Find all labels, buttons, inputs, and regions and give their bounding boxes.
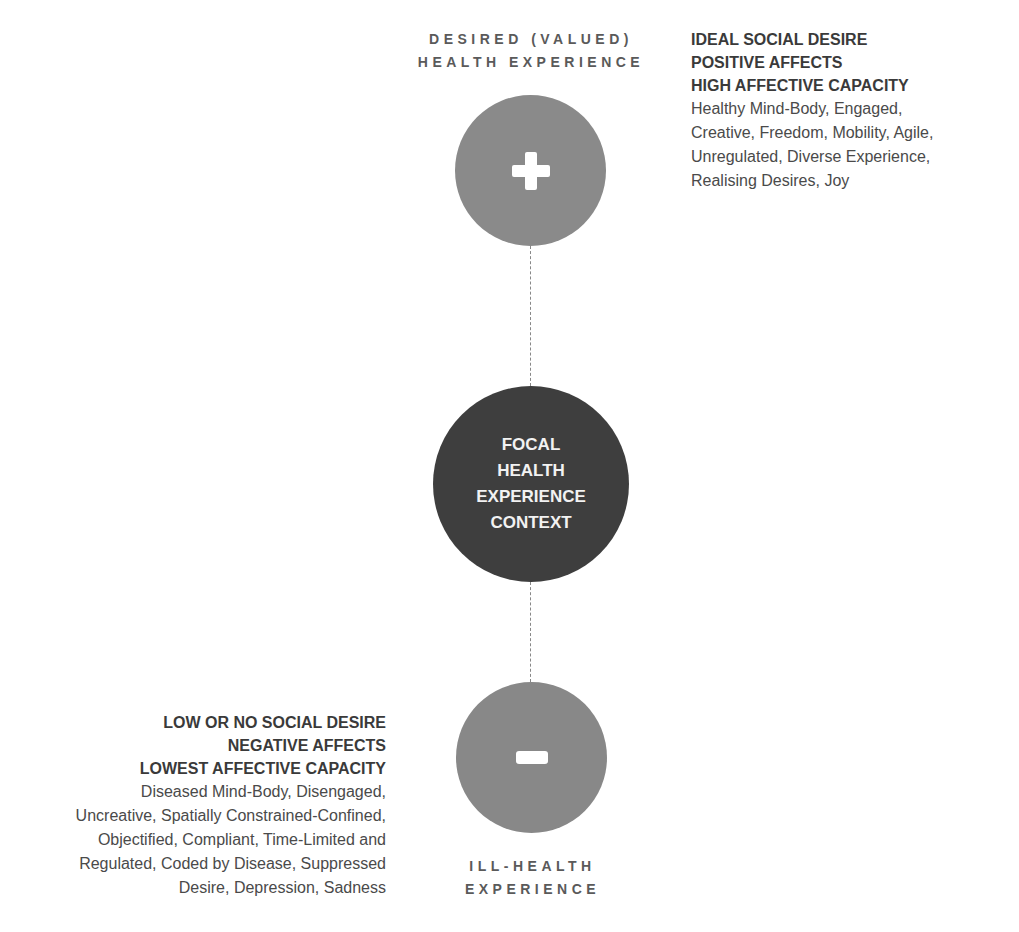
top-node-description-block: IDEAL SOCIAL DESIRE POSITIVE AFFECTS HIG… <box>691 28 1011 193</box>
top-node-title-line: DESIRED (VALUED) <box>400 28 662 51</box>
top-heading-line: HIGH AFFECTIVE CAPACITY <box>691 74 1011 97</box>
top-description-line: Unregulated, Diverse Experience, <box>691 145 1011 169</box>
top-description-line: Healthy Mind-Body, Engaged, <box>691 97 1011 121</box>
plus-icon <box>512 152 550 190</box>
top-heading-line: POSITIVE AFFECTS <box>691 51 1011 74</box>
bottom-description-line: Objectified, Compliant, Time-Limited and <box>20 828 386 852</box>
focal-label-line: EXPERIENCE <box>476 484 586 510</box>
top-node-title-line: HEALTH EXPERIENCE <box>400 51 662 74</box>
bottom-heading-line: NEGATIVE AFFECTS <box>20 734 386 757</box>
minus-icon <box>516 751 548 764</box>
connector-center-bottom <box>530 582 531 682</box>
top-node-title: DESIRED (VALUED) HEALTH EXPERIENCE <box>400 28 662 74</box>
bottom-description-line: Diseased Mind-Body, Disengaged, <box>20 780 386 804</box>
top-description-line: Realising Desires, Joy <box>691 169 1011 193</box>
focal-label-line: CONTEXT <box>476 510 586 536</box>
top-heading-line: IDEAL SOCIAL DESIRE <box>691 28 1011 51</box>
bottom-description-line: Regulated, Coded by Disease, Suppressed <box>20 852 386 876</box>
bottom-node-title-line: EXPERIENCE <box>430 878 635 901</box>
connector-top-center <box>530 246 531 386</box>
bottom-node-title: ILL-HEALTH EXPERIENCE <box>430 855 635 901</box>
focal-label-line: HEALTH <box>476 458 586 484</box>
bottom-heading-line: LOW OR NO SOCIAL DESIRE <box>20 711 386 734</box>
bottom-node-title-line: ILL-HEALTH <box>430 855 635 878</box>
focal-node-label: FOCAL HEALTH EXPERIENCE CONTEXT <box>476 432 586 536</box>
ill-health-node <box>456 682 607 833</box>
focal-label-line: FOCAL <box>476 432 586 458</box>
focal-health-node: FOCAL HEALTH EXPERIENCE CONTEXT <box>433 386 629 582</box>
bottom-description-line: Uncreative, Spatially Constrained-Confin… <box>20 804 386 828</box>
top-description-line: Creative, Freedom, Mobility, Agile, <box>691 121 1011 145</box>
bottom-heading-line: LOWEST AFFECTIVE CAPACITY <box>20 757 386 780</box>
desired-health-node <box>455 95 606 246</box>
bottom-description-line: Desire, Depression, Sadness <box>20 876 386 900</box>
bottom-node-description-block: LOW OR NO SOCIAL DESIRE NEGATIVE AFFECTS… <box>20 711 386 900</box>
